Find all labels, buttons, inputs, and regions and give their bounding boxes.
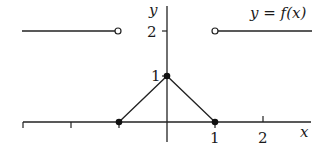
closed-point-0-1 [164, 73, 171, 80]
closed-point-1 [212, 119, 219, 126]
function-label: y = f(x) [249, 4, 306, 22]
x-axis-label: x [300, 123, 309, 141]
function-graph: y 2 1 1 2 x y = f(x) [0, 0, 327, 151]
open-point-right [212, 28, 218, 34]
closed-point-neg1 [116, 119, 123, 126]
y-tick-label-2: 2 [147, 23, 157, 41]
x-tick-label-2: 2 [258, 129, 268, 147]
y-axis-label: y [148, 1, 158, 19]
y-tick-label-1: 1 [151, 67, 161, 85]
x-tick-label-1: 1 [210, 129, 220, 147]
open-point-left [115, 28, 121, 34]
